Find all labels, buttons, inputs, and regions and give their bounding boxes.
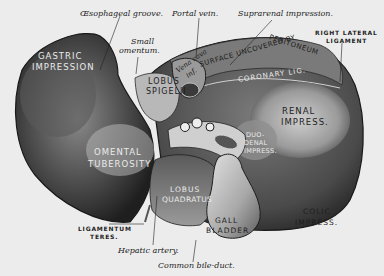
label-ligamentum-teres-2: TERES. xyxy=(90,234,118,240)
label-gall-bladder-1: GALL xyxy=(215,217,238,225)
label-omental-tuberosity-1: OMENTAL xyxy=(94,148,142,157)
label-small-omentum-1: Small xyxy=(131,38,154,46)
label-right-lateral-ligament-1: RIGHT LATERAL xyxy=(315,30,378,36)
label-lobus-quadratus-2: QUADRATUS xyxy=(162,196,212,204)
label-suprarenal-impression: Suprarenal impression. xyxy=(238,10,333,18)
label-renal-2: IMPRESS. xyxy=(281,118,329,127)
label-renal-1: RENAL xyxy=(282,107,315,116)
label-small-omentum-2: omentum. xyxy=(119,47,160,55)
liver-diagram: Œsophageal groove. Portal vein. Supraren… xyxy=(0,0,384,276)
label-duodenal-2: DENAL xyxy=(244,140,268,147)
label-lobus-spigelii-2: SPIGELII xyxy=(146,88,187,96)
label-common-bile-duct: Common bile-duct. xyxy=(158,262,235,270)
label-gastric-impression-1: GASTRIC xyxy=(38,52,82,61)
label-omental-tuberosity-2: TUBEROSITY xyxy=(88,160,152,169)
label-lobus-spigelii-1: LOBUS xyxy=(148,78,180,86)
label-duodenal-1: DUO- xyxy=(246,132,265,139)
label-colic-2: IMPRESS. xyxy=(295,219,338,227)
label-duodenal-3: IMPRESS. xyxy=(244,148,277,155)
label-colic-1: COLIC xyxy=(303,208,331,216)
label-esophageal-groove: Œsophageal groove. xyxy=(80,10,163,18)
label-portal-vein: Portal vein. xyxy=(172,10,218,18)
label-right-lateral-ligament-2: LIGAMENT xyxy=(326,38,367,44)
label-gall-bladder-2: BLADDER xyxy=(206,227,249,235)
label-gastric-impression-2: IMPRESSION xyxy=(32,63,95,72)
label-hepatic-artery: Hepatic artery. xyxy=(118,247,179,255)
label-ligamentum-teres-1: LIGAMENTUM xyxy=(78,226,132,232)
label-lobus-quadratus-1: LOBUS xyxy=(170,186,200,194)
